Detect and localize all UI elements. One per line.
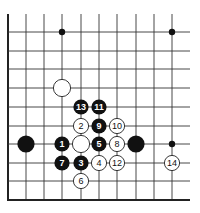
white-stone-10: 10 [109, 118, 124, 133]
star-point-icon [169, 141, 175, 147]
white-stone-4: 4 [91, 155, 106, 170]
move-number: 14 [167, 158, 177, 168]
white-stone [53, 79, 70, 96]
move-number: 5 [96, 139, 101, 149]
move-number: 8 [114, 139, 119, 149]
go-board: 1234567891011121314 [0, 0, 200, 213]
move-number: 13 [76, 102, 86, 112]
stones: 1234567891011121314 [17, 79, 179, 188]
white-stone-8: 8 [109, 136, 124, 151]
star-point-icon [59, 29, 65, 35]
white-stone-2: 2 [73, 118, 88, 133]
black-stone-1: 1 [54, 136, 69, 151]
move-number: 12 [112, 158, 122, 168]
black-stone-7: 7 [54, 155, 69, 170]
black-stone-5: 5 [91, 136, 106, 151]
white-stone-12: 12 [109, 155, 124, 170]
black-stone [127, 135, 144, 152]
black-stone-13: 13 [73, 99, 88, 114]
white-stone-icon [72, 135, 89, 152]
move-number: 1 [59, 139, 64, 149]
black-stone-3: 3 [73, 155, 88, 170]
move-number: 10 [112, 121, 122, 131]
black-stone [17, 135, 34, 152]
white-stone [72, 135, 89, 152]
black-stone-icon [17, 135, 34, 152]
black-stone-11: 11 [91, 99, 106, 114]
move-number: 2 [78, 121, 83, 131]
move-number: 6 [78, 176, 83, 186]
move-number: 9 [96, 121, 101, 131]
black-stone-icon [127, 135, 144, 152]
move-number: 11 [94, 102, 104, 112]
star-point-icon [169, 29, 175, 35]
white-stone-icon [53, 79, 70, 96]
move-number: 3 [78, 158, 83, 168]
white-stone-6: 6 [73, 173, 88, 188]
black-stone-9: 9 [91, 118, 106, 133]
move-number: 4 [96, 158, 101, 168]
white-stone-14: 14 [164, 155, 179, 170]
move-number: 7 [59, 158, 64, 168]
